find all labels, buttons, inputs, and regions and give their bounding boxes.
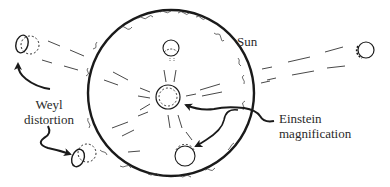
einstein-label-line1: Einstein	[279, 111, 351, 126]
einstein-magnification-label: Einstein magnification	[279, 111, 351, 141]
object-left-lower	[69, 144, 96, 169]
sun-disk	[86, 10, 254, 177]
object-right-upper	[357, 42, 374, 58]
object-center	[156, 85, 180, 109]
object-left-upper	[14, 34, 39, 54]
einstein-label-line2: magnification	[279, 126, 351, 141]
weyl-arrow-upper	[18, 64, 50, 89]
einstein-arrow-center	[186, 105, 274, 121]
weyl-arrow-lower	[41, 126, 70, 154]
weyl-distortion-label: Weyl distortion	[14, 97, 84, 127]
einstein-arrow-bottom	[196, 110, 238, 146]
sun-label: Sun	[237, 34, 257, 49]
weyl-label-line1: Weyl	[14, 97, 84, 112]
weyl-label-line2: distortion	[14, 112, 84, 127]
diagram-canvas	[0, 0, 390, 187]
object-bottom-inner	[175, 144, 195, 166]
object-top-inner	[163, 40, 179, 62]
